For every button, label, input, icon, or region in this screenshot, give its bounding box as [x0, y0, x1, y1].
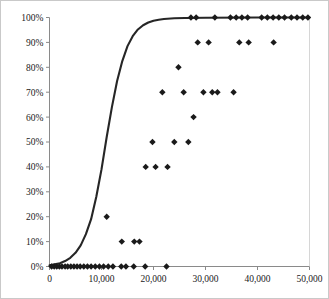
- x-tick-label: 50,000: [296, 274, 322, 284]
- data-point: [270, 39, 276, 45]
- y-tick-label: 0%: [31, 262, 44, 272]
- data-point: [244, 14, 250, 20]
- y-axis-ticks: [46, 18, 50, 267]
- data-point: [193, 14, 199, 20]
- y-tick-label: 30%: [26, 187, 44, 197]
- data-point: [230, 89, 236, 95]
- data-point: [110, 263, 116, 269]
- data-point: [142, 263, 148, 269]
- data-point: [236, 39, 242, 45]
- y-tick-label: 100%: [21, 13, 43, 23]
- data-point: [143, 164, 149, 170]
- data-point: [195, 39, 201, 45]
- data-point: [270, 14, 276, 20]
- data-point: [163, 263, 169, 269]
- logistic-curve-path: [50, 18, 310, 266]
- data-point: [276, 14, 282, 20]
- data-point: [164, 164, 170, 170]
- x-tick-label: 40,000: [244, 274, 270, 284]
- x-tick-label: 10,000: [88, 274, 114, 284]
- data-point: [119, 238, 125, 244]
- data-point: [175, 64, 181, 70]
- data-point: [152, 164, 158, 170]
- data-point: [258, 14, 264, 20]
- data-point: [214, 89, 220, 95]
- y-tick-label: 50%: [26, 137, 44, 147]
- y-tick-label: 80%: [26, 63, 44, 73]
- y-tick-label: 10%: [26, 237, 44, 247]
- data-point: [264, 14, 270, 20]
- data-point: [245, 39, 251, 45]
- data-point: [233, 14, 239, 20]
- data-point: [190, 114, 196, 120]
- data-point: [227, 14, 233, 20]
- data-point: [123, 263, 129, 269]
- data-point: [104, 214, 110, 220]
- data-point: [288, 14, 294, 20]
- y-tick-label: 60%: [26, 113, 44, 123]
- data-point: [136, 238, 142, 244]
- y-tick-label: 70%: [26, 88, 44, 98]
- x-tick-label: 0: [47, 274, 52, 284]
- x-tick-label: 20,000: [140, 274, 166, 284]
- data-point: [294, 14, 300, 20]
- y-tick-label: 40%: [26, 162, 44, 172]
- data-point: [281, 14, 287, 20]
- data-point: [205, 39, 211, 45]
- x-axis-tick-labels: 010,00020,00030,00040,00050,000: [47, 274, 323, 284]
- fitted-curve: [50, 18, 310, 266]
- data-point: [159, 89, 165, 95]
- scatter-plot-canvas: 0%10%20%30%40%50%60%70%80%90%100% 010,00…: [1, 1, 329, 299]
- y-tick-label: 90%: [26, 38, 44, 48]
- data-point: [200, 89, 206, 95]
- data-point: [149, 139, 155, 145]
- y-tick-label: 20%: [26, 212, 44, 222]
- y-axis-tick-labels: 0%10%20%30%40%50%60%70%80%90%100%: [21, 13, 43, 272]
- data-point: [305, 14, 311, 20]
- x-tick-label: 30,000: [192, 274, 218, 284]
- data-point: [212, 14, 218, 20]
- chart-figure: 0%10%20%30%40%50%60%70%80%90%100% 010,00…: [0, 0, 329, 299]
- data-point: [131, 263, 137, 269]
- data-point: [239, 14, 245, 20]
- data-point: [180, 89, 186, 95]
- data-point: [185, 139, 191, 145]
- data-point: [171, 139, 177, 145]
